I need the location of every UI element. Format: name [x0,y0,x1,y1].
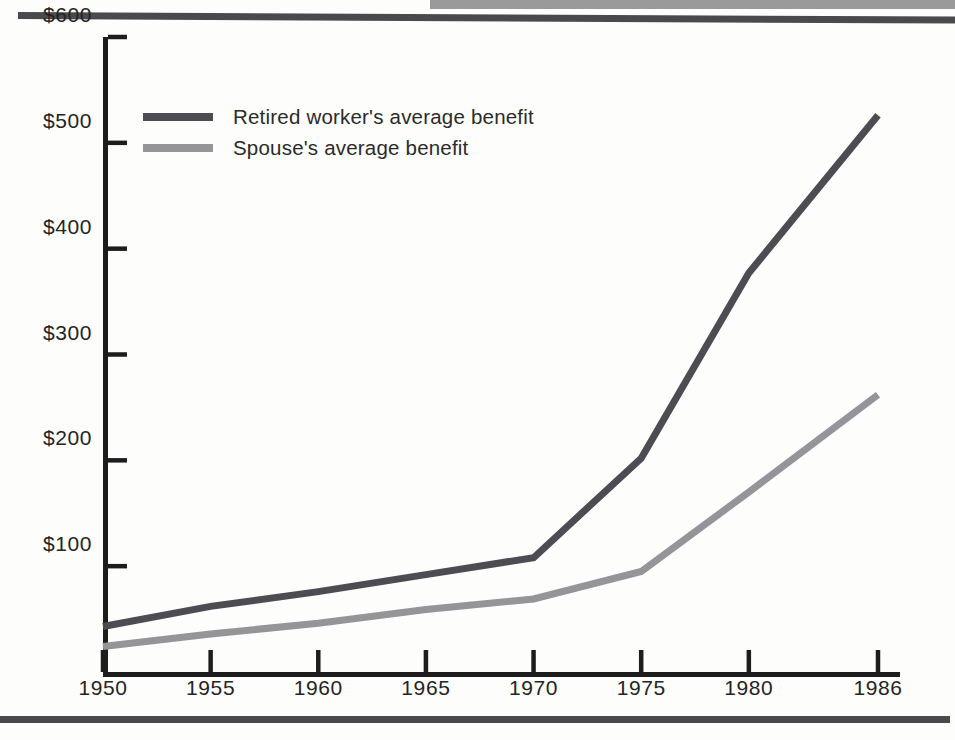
legend-item-spouse: Spouse's average benefit [143,132,534,163]
y-tick-label-400: $400 [43,215,92,239]
chart-legend: Retired worker's average benefit Spouse'… [143,101,534,163]
legend-swatch-retired-worker-icon [143,113,213,121]
x-tick-label-1975: 1975 [617,676,666,700]
x-tick-label-1955: 1955 [186,676,235,700]
y-tick-label-200: $200 [43,426,92,450]
y-axis-label-group: $100$200$300$400$500$600 [0,0,92,690]
y-tick-label-600: $600 [43,3,92,27]
legend-swatch-spouse-icon [143,144,213,152]
y-tick-label-300: $300 [43,321,92,345]
x-tick-label-1970: 1970 [509,676,558,700]
x-tick-label-1950: 1950 [78,676,127,700]
legend-label-retired-worker: Retired worker's average benefit [233,105,534,129]
x-tick-label-1960: 1960 [294,676,343,700]
x-tick-label-1980: 1980 [724,676,773,700]
x-tick-label-1986: 1986 [853,676,902,700]
legend-label-spouse: Spouse's average benefit [233,136,469,160]
chart-page: $100$200$300$400$500$600 195019551960196… [0,0,955,740]
top-grey-band [430,0,955,9]
y-tick-label-100: $100 [43,532,92,556]
x-tick-label-1965: 1965 [401,676,450,700]
x-axis-label-group: 19501955196019651970197519801986 [0,676,955,716]
y-tick-label-500: $500 [43,109,92,133]
bottom-dark-rule [0,716,950,723]
legend-item-retired-worker: Retired worker's average benefit [143,101,534,132]
